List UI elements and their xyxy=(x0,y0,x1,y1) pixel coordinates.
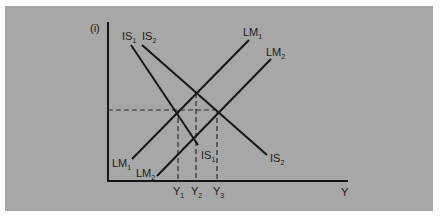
is1-label-end: IS1 xyxy=(201,149,215,163)
is2-curve xyxy=(142,45,267,155)
y1-tick-label: Y1 xyxy=(173,185,184,199)
x-axis-label: Y xyxy=(341,186,349,198)
y2-tick-label: Y2 xyxy=(191,185,202,199)
is1-curve xyxy=(131,45,198,145)
is1-label: IS1 xyxy=(122,30,136,44)
is2-label: IS2 xyxy=(142,30,156,44)
lm2-label-end: LM2 xyxy=(136,167,155,181)
y3-tick-label: Y3 xyxy=(213,185,224,199)
lm1-label-top: LM1 xyxy=(243,26,262,40)
y-axis-label: (i) xyxy=(90,22,100,34)
is2-label-end: IS2 xyxy=(270,152,284,166)
lm2-label-top: LM2 xyxy=(266,46,285,60)
is-lm-diagram: (i) Y IS1 IS2 LM1 LM2 IS1 IS2 LM1 LM2 Y1… xyxy=(0,0,443,216)
lm1-label-end: LM1 xyxy=(112,157,131,171)
